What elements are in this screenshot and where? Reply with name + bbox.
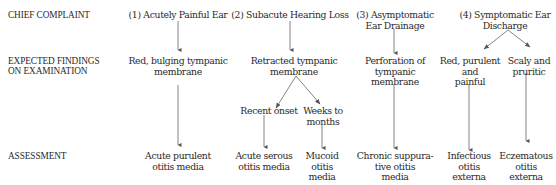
arrow-c4-to-red-purulent <box>484 30 508 49</box>
assessment-c4b-line3: externa <box>496 172 556 183</box>
assessment-c1-line1: Acute purulent <box>138 151 218 162</box>
finding-c4-scaly: Scaly and pruritic <box>502 56 556 77</box>
assessment-c4b-line1: Eczematous <box>496 151 556 162</box>
assessment-c3-line3: media <box>352 172 438 183</box>
assessment-c4a-line1: Infectious <box>440 151 498 162</box>
finding-c2: Retracted tympanic membrane <box>238 56 350 77</box>
finding-c2-recent-onset: Recent onset <box>234 106 304 117</box>
finding-c3-line3: membrane <box>355 77 435 88</box>
complaint-3: (3) Asymptomatic Ear Drainage <box>345 10 445 31</box>
finding-c4b-line2: pruritic <box>502 67 556 78</box>
assessment-c3: Chronic suppura- tive otitis media <box>352 151 438 183</box>
arrow-c2-to-weeks <box>296 76 320 104</box>
assessment-c2a-line2: otitis media <box>228 162 300 173</box>
assessment-c4a: Infectious otitis externa <box>440 151 498 183</box>
finding-c2b-line1: Weeks to <box>300 106 346 117</box>
finding-c2-weeks-to-months: Weeks to months <box>300 106 346 127</box>
complaint-4: (4) Symptomatic Ear Discharge <box>448 10 556 31</box>
assessment-c2b-line3: media <box>302 172 342 183</box>
finding-c1-line1: Red, bulging tympanic <box>118 56 238 67</box>
assessment-c2b-line1: Mucoid <box>302 151 342 162</box>
complaint-2: (2) Subacute Hearing Loss <box>222 10 358 21</box>
finding-c4b-line1: Scaly and <box>502 56 556 67</box>
assessment-c1: Acute purulent otitis media <box>138 151 218 172</box>
complaint-4-line1: (4) Symptomatic Ear <box>448 10 556 21</box>
row-label-assessment: ASSESSMENT <box>8 151 66 161</box>
finding-c4-red-purulent: Red, purulent and painful <box>436 56 504 88</box>
finding-c1-line2: membrane <box>118 67 238 78</box>
complaint-4-line2: Discharge <box>448 21 556 32</box>
assessment-c4a-line3: externa <box>440 172 498 183</box>
finding-c2-line1: Retracted tympanic <box>238 56 350 67</box>
row-label-chief-complaint: CHIEF COMPLAINT <box>8 10 90 20</box>
finding-c2b-line2: months <box>300 117 346 128</box>
arrow-c4-to-scaly <box>508 30 530 47</box>
assessment-c2b: Mucoid otitis media <box>302 151 342 183</box>
finding-c4a-line1: Red, purulent <box>436 56 504 67</box>
row-label-findings-2: ON EXAMINATION <box>8 66 87 76</box>
finding-c4a-line3: painful <box>436 77 504 88</box>
row-label-findings-1: EXPECTED FINDINGS <box>8 56 100 66</box>
finding-c1: Red, bulging tympanic membrane <box>118 56 238 77</box>
assessment-c2a-line1: Acute serous <box>228 151 300 162</box>
finding-c2-line2: membrane <box>238 67 350 78</box>
assessment-c1-line2: otitis media <box>138 162 218 173</box>
complaint-3-line2: Ear Drainage <box>345 21 445 32</box>
assessment-c2a: Acute serous otitis media <box>228 151 300 172</box>
assessment-c3-line1: Chronic suppura- <box>352 151 438 162</box>
complaint-3-line1: (3) Asymptomatic <box>345 10 445 21</box>
finding-c3: Perforation of tympanic membrane <box>355 56 435 88</box>
assessment-c4b: Eczematous otitis externa <box>496 151 556 183</box>
finding-c3-line1: Perforation of <box>355 56 435 67</box>
arrow-c2-to-recent-onset <box>276 76 296 108</box>
